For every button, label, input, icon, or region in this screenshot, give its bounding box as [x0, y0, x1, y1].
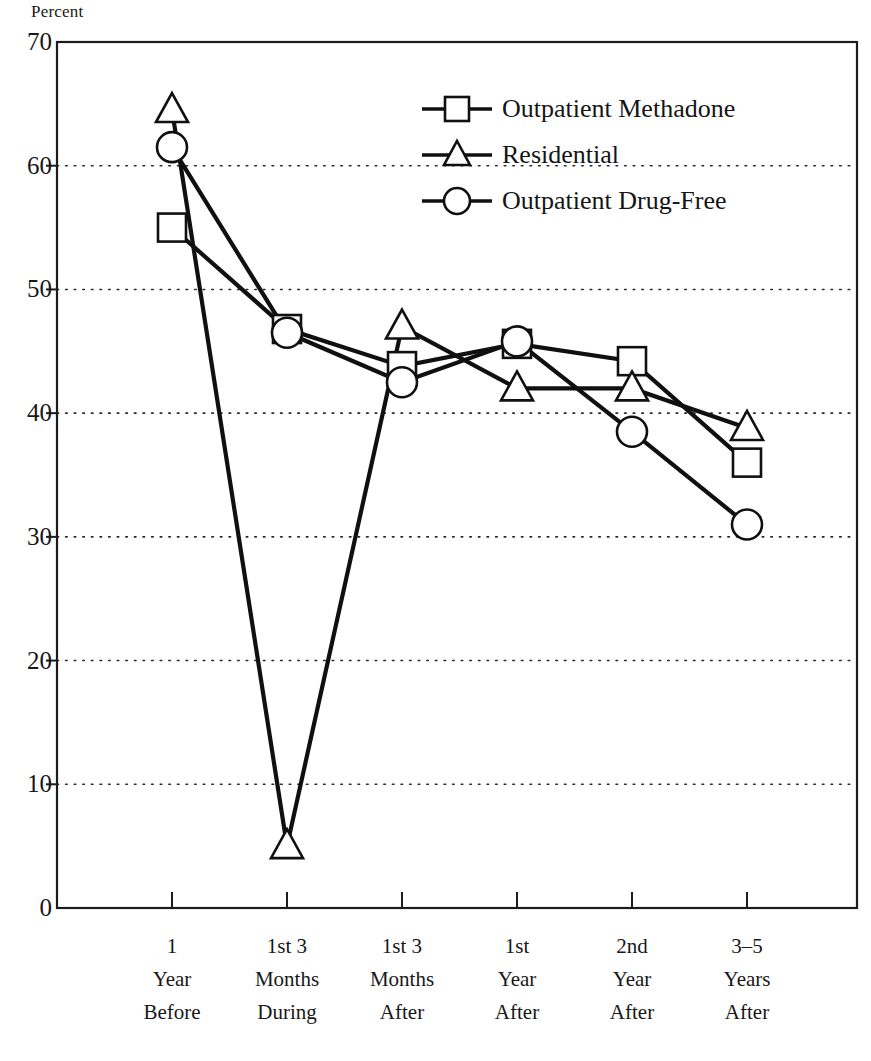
- x-tick-label-line: Months: [337, 963, 467, 996]
- marker-circle: [502, 326, 532, 356]
- y-tick-label-40: 40: [4, 399, 52, 427]
- y-tick-label-10: 10: [4, 770, 52, 798]
- legend-square-icon: [418, 89, 496, 129]
- x-tick-label-line: During: [222, 996, 352, 1029]
- y-tick-label-0: 0: [4, 894, 52, 922]
- x-tick-label-line: 1st: [452, 930, 582, 963]
- marker-triangle: [501, 371, 533, 400]
- y-axis-tick-labels: 706050403020100: [0, 0, 52, 1061]
- legend-item-outpatient-drug-free: Outpatient Drug-Free: [418, 178, 848, 224]
- x-tick-label-4: 2ndYearAfter: [567, 930, 697, 1029]
- legend-label-residential: Residential: [496, 140, 619, 170]
- y-tick-label-20: 20: [4, 647, 52, 675]
- marker-circle: [387, 367, 417, 397]
- x-tick-label-line: Year: [107, 963, 237, 996]
- x-tick-label-line: After: [337, 996, 467, 1029]
- y-tick-label-60: 60: [4, 152, 52, 180]
- chart-container: Percent 706050403020100 1YearBefore1st 3…: [0, 0, 871, 1061]
- x-tick-label-line: Years: [682, 963, 812, 996]
- x-tick-label-2: 1st 3MonthsAfter: [337, 930, 467, 1029]
- legend-item-residential: Residential: [418, 132, 848, 178]
- x-tick-label-line: Before: [107, 996, 237, 1029]
- marker-circle: [732, 509, 762, 539]
- series-line-outpatient-methadone: [172, 228, 747, 463]
- x-tick-label-line: 2nd: [567, 930, 697, 963]
- marker-circle: [617, 417, 647, 447]
- x-tick-label-line: 1: [107, 930, 237, 963]
- x-tick-label-line: After: [452, 996, 582, 1029]
- x-tickmarks: [172, 892, 747, 908]
- marker-circle: [272, 318, 302, 348]
- legend-item-outpatient-methadone: Outpatient Methadone: [418, 86, 848, 132]
- marker-triangle: [386, 310, 418, 339]
- y-tick-label-30: 30: [4, 523, 52, 551]
- marker-square: [158, 214, 186, 242]
- chart-legend: Outpatient Methadone Residential Outpati…: [418, 86, 848, 224]
- marker-square: [733, 449, 761, 477]
- x-tick-label-5: 3–5YearsAfter: [682, 930, 812, 1029]
- legend-triangle-icon: [418, 135, 496, 175]
- x-tick-label-line: 1st 3: [337, 930, 467, 963]
- x-tick-label-3: 1stYearAfter: [452, 930, 582, 1029]
- marker-triangle: [156, 93, 188, 122]
- y-tick-label-70: 70: [4, 28, 52, 56]
- x-tick-label-line: Year: [452, 963, 582, 996]
- x-tick-label-0: 1YearBefore: [107, 930, 237, 1029]
- x-tick-label-line: 3–5: [682, 930, 812, 963]
- x-tick-label-line: 1st 3: [222, 930, 352, 963]
- legend-label-outpatient-drug-free: Outpatient Drug-Free: [496, 186, 727, 216]
- x-tick-label-1: 1st 3MonthsDuring: [222, 930, 352, 1029]
- x-tick-label-line: Year: [567, 963, 697, 996]
- marker-circle: [157, 132, 187, 162]
- x-tick-label-line: Months: [222, 963, 352, 996]
- marker-triangle: [271, 829, 303, 858]
- legend-circle-icon: [418, 181, 496, 221]
- y-tick-label-50: 50: [4, 275, 52, 303]
- x-tick-label-line: After: [682, 996, 812, 1029]
- x-tick-label-line: After: [567, 996, 697, 1029]
- legend-label-outpatient-methadone: Outpatient Methadone: [496, 94, 735, 124]
